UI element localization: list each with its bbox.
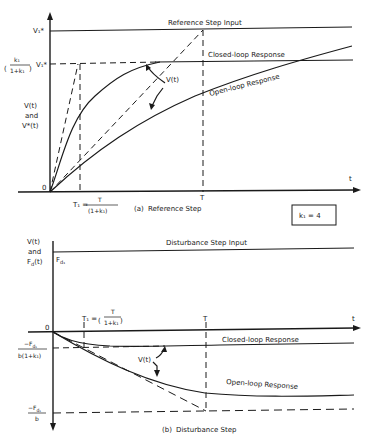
panel-b-y-tick-low-den: b: [35, 415, 39, 422]
panel-b-caption-letter: (b): [162, 426, 172, 434]
panel-a-y-tick-mid-suffix: V₁*: [36, 61, 48, 69]
panel-a-y-tick-paren-left: (: [4, 65, 7, 73]
panel-a-reference-step: Reference Step Input Closed-loop Respons…: [4, 12, 361, 225]
panel-b-y-tick-mid-den: b(1+k₁): [18, 352, 41, 359]
panel-b-x-axis: [28, 328, 355, 332]
panel-a-caption: Reference Step: [148, 205, 202, 213]
panel-b-y-axis-label-3: Fd(t): [27, 258, 43, 267]
panel-a-open-loop-label: Open-loop Response: [209, 73, 281, 98]
gain-box-label: k₁ = 4: [299, 212, 321, 220]
panel-b-y-axis-label-1: V(t): [27, 238, 40, 246]
panel-a-reference-step-line: [50, 27, 352, 31]
panel-b-vt-arrowhead-closed-icon: [161, 346, 167, 352]
panel-a-reference-label: Reference Step Input: [168, 19, 242, 27]
panel-a-y-tick-v1: V₁*: [33, 27, 45, 35]
panel-a-vt-label: V(t): [166, 76, 179, 84]
panel-a-closed-loop-level-dashed: [50, 62, 160, 64]
panel-b-x-tick-T1-paren-left: (: [98, 317, 101, 325]
panel-b-t-label: t: [352, 315, 355, 323]
panel-b-disturbance-step-line: [53, 248, 354, 252]
panel-a-tangent-closed: [50, 64, 78, 192]
panel-b-y-tick-low-num: −Fd₁: [28, 404, 41, 413]
panel-a-caption-letter: (a): [134, 205, 144, 213]
panel-b-closed-loop-label: Closed-loop Response: [222, 336, 299, 344]
panel-a-closed-loop-curve: [50, 62, 160, 192]
panel-a-y-tick-mid-den: 1+k₁: [10, 67, 25, 74]
panel-b-caption: Disturbance Step: [176, 426, 237, 434]
panel-b-x-tick-T1-left: T₁ =: [81, 315, 97, 323]
panel-a-closed-loop-steady-line: [155, 60, 353, 62]
panel-a-tangent-open: [50, 30, 203, 192]
panel-a-x-tick-T1-num: T: [97, 196, 102, 203]
panel-b-closed-loop-curve: [53, 332, 354, 346]
panel-b-vt-arrowhead-open-icon: [154, 370, 160, 377]
panel-b-y-axis-arrow-icon: [50, 423, 56, 431]
panel-a-vt-arrowhead-open-icon: [149, 103, 155, 110]
panel-b-y-axis-label-2: and: [28, 248, 41, 256]
panel-a-t-label: t: [349, 175, 352, 183]
panel-a-x-tick-T: T: [199, 194, 205, 202]
panel-b-x-axis-arrow-icon: [353, 325, 361, 331]
panel-b-open-loop-curve: [53, 332, 354, 396]
panel-a-x-axis-arrow-icon: [353, 187, 361, 193]
panel-b-x-tick-T: T: [202, 315, 208, 323]
panel-a-y-axis-label-2: and: [25, 112, 38, 120]
panel-a-y-tick-paren-right: ): [29, 65, 32, 73]
panel-a-open-loop-curve: [50, 46, 352, 192]
panel-b-vt-label: V(t): [138, 356, 151, 364]
panel-b-x-tick-T1-den: 1+k₁: [104, 319, 119, 326]
panel-b-y-tick-mid-num: −Fd₁: [24, 340, 37, 349]
panel-b-y-tick-fd1: Fd₁: [56, 256, 65, 265]
panel-a-vt-arrow-closed: [148, 67, 165, 83]
panel-a-y-axis-arrow-icon: [47, 12, 53, 20]
panel-a-y-axis-label-1: V(t): [24, 102, 37, 110]
panel-a-x-tick-T1-den: (1+k₁): [88, 207, 107, 214]
panel-b-x-tick-T1-paren-right: ): [120, 317, 123, 325]
step-response-figure: Reference Step Input Closed-loop Respons…: [0, 0, 369, 443]
panel-a-x-axis: [18, 190, 355, 192]
panel-a-x-tick-T1-left: T₁ =: [72, 201, 88, 209]
panel-b-open-loop-label: Open-loop Response: [226, 378, 298, 391]
panel-a-vt-arrow-open: [152, 88, 163, 106]
panel-a-y-axis-label-3: V*(t): [22, 122, 39, 130]
panel-b-x-tick-T1-num: T: [110, 308, 115, 315]
panel-b-disturbance-step: Disturbance Step Input Closed-loop Respo…: [18, 238, 361, 434]
panel-b-origin: 0: [45, 324, 49, 332]
panel-b-disturbance-label: Disturbance Step Input: [166, 239, 247, 247]
panel-a-origin: 0: [42, 184, 46, 192]
panel-a-closed-loop-label: Closed-loop Response: [208, 51, 285, 59]
panel-a-y-tick-mid-num: k₁: [14, 56, 20, 63]
